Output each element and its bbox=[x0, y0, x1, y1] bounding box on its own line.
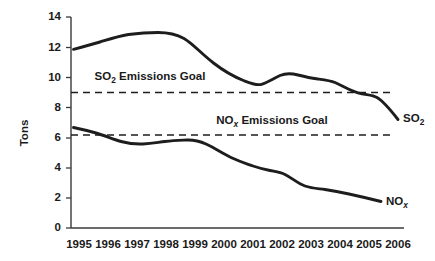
y-tick-label-12: 12 bbox=[48, 41, 61, 53]
y-tick-label-14: 14 bbox=[48, 10, 61, 22]
x-tick-label-2002: 2002 bbox=[269, 238, 295, 250]
x-tick-label-1995: 1995 bbox=[66, 238, 92, 250]
x-tick-label-2001: 2001 bbox=[240, 238, 266, 250]
emissions-trend-chart: 0 2 4 6 8 10 12 14 Tons SO2 Emissions Go… bbox=[0, 0, 435, 261]
nox-goal-label: NOx Emissions Goal bbox=[216, 114, 327, 129]
x-tick-label-1997: 1997 bbox=[124, 238, 150, 250]
x-tick-label-1998: 1998 bbox=[153, 238, 179, 250]
series-label-so2: SO2 bbox=[403, 112, 425, 127]
x-tick-label-2004: 2004 bbox=[327, 238, 353, 250]
y-tick-label-4: 4 bbox=[55, 161, 62, 173]
x-tick-label-2000: 2000 bbox=[211, 238, 237, 250]
x-tick-label-2006: 2006 bbox=[385, 238, 411, 250]
so2-goal-label: SO2 Emissions Goal bbox=[95, 70, 206, 85]
y-axis-ticks bbox=[66, 17, 71, 228]
x-tick-label-2003: 2003 bbox=[298, 238, 324, 250]
series-label-nox: NOx bbox=[386, 195, 408, 210]
y-tick-label-6: 6 bbox=[55, 131, 61, 143]
y-tick-label-0: 0 bbox=[55, 221, 61, 233]
x-tick-label-1999: 1999 bbox=[182, 238, 208, 250]
y-tick-label-10: 10 bbox=[48, 71, 61, 83]
y-tick-label-2: 2 bbox=[55, 191, 61, 203]
chart-plot-area: 0 2 4 6 8 10 12 14 Tons SO2 Emissions Go… bbox=[0, 0, 435, 261]
y-tick-label-8: 8 bbox=[55, 101, 62, 113]
y-axis-title: Tons bbox=[18, 120, 30, 147]
x-tick-label-1996: 1996 bbox=[95, 238, 121, 250]
x-tick-label-2005: 2005 bbox=[356, 238, 382, 250]
series-line-nox bbox=[74, 128, 382, 202]
